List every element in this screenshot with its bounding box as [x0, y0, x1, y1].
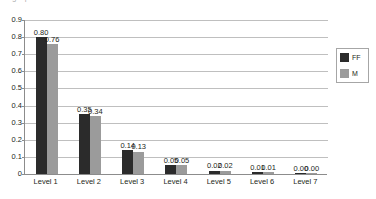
bar-value-label: 0.01: [261, 164, 276, 172]
bar-m: 0.00: [306, 173, 317, 174]
bar-ff: 0.14: [122, 150, 133, 174]
bar-ff: 0.00: [295, 173, 306, 174]
bar-m: 0.76: [47, 44, 58, 174]
legend-label-ff: FF: [352, 54, 361, 61]
bar-ff: 0.05: [165, 165, 176, 174]
bar-value-label: 0.76: [45, 36, 60, 44]
y-axis-tick-label: 0.1: [12, 153, 22, 161]
x-axis-label: Level 5: [197, 177, 240, 186]
bar-m: 0.13: [133, 152, 144, 174]
bar-ff: 0.02: [209, 171, 220, 174]
bar-group: 0.050.05: [155, 20, 198, 174]
y-axis-tick-label: 0.4: [12, 102, 22, 110]
legend-swatch-ff: [340, 53, 349, 62]
y-axis-tick-label: 0.6: [12, 68, 22, 76]
bar-group: 0.000.00: [285, 20, 328, 174]
bar-m: 0.01: [263, 172, 274, 174]
bar-value-label: 0.02: [218, 162, 233, 170]
x-axis-label: Level 7: [284, 177, 327, 186]
x-axis-labels: Level 1Level 2Level 3Level 4Level 5Level…: [24, 177, 327, 186]
bar-m: 0.34: [90, 116, 101, 174]
chart-legend: FF M: [336, 48, 369, 83]
legend-item-ff: FF: [340, 53, 365, 62]
y-axis-tick-label: 0.8: [12, 33, 22, 41]
bar-value-label: 0.05: [175, 157, 190, 165]
clipped-chart-title: graph title: [12, 0, 52, 2]
bar-value-label: 0.00: [305, 165, 320, 173]
y-axis-tick-label: 0.7: [12, 50, 22, 58]
x-axis-label: Level 6: [240, 177, 283, 186]
bar-ff: 0.01: [252, 172, 263, 174]
bar-value-label: 0.34: [88, 108, 103, 116]
bar-m: 0.02: [220, 171, 231, 174]
bar-chart: graph title 00.10.20.30.40.50.60.70.80.9…: [0, 0, 376, 199]
y-axis-tick-label: 0.5: [12, 85, 22, 93]
bar-group: 0.010.01: [241, 20, 284, 174]
bar-group: 0.140.13: [112, 20, 155, 174]
bar-ff: 0.80: [36, 37, 47, 174]
bar-m: 0.05: [176, 165, 187, 174]
bar-value-label: 0.13: [131, 143, 146, 151]
y-axis-tick-label: 0.3: [12, 119, 22, 127]
legend-swatch-m: [340, 69, 349, 78]
y-axis-tick-mark: [22, 174, 25, 175]
y-axis-tick-label: 0.2: [12, 136, 22, 144]
x-axis-label: Level 4: [154, 177, 197, 186]
legend-label-m: M: [352, 70, 358, 77]
plot-area: 00.10.20.30.40.50.60.70.80.9 0.800.760.3…: [24, 20, 327, 175]
y-axis-tick-label: 0.9: [12, 16, 22, 24]
bar-group: 0.350.34: [68, 20, 111, 174]
bar-groups: 0.800.760.350.340.140.130.050.050.020.02…: [25, 20, 328, 174]
x-axis-label: Level 1: [24, 177, 67, 186]
legend-item-m: M: [340, 69, 365, 78]
bar-ff: 0.35: [79, 114, 90, 174]
x-axis-label: Level 3: [111, 177, 154, 186]
y-axis-tick-label: 0: [18, 170, 22, 178]
bar-group: 0.800.76: [25, 20, 68, 174]
x-axis-label: Level 2: [67, 177, 110, 186]
bar-group: 0.020.02: [198, 20, 241, 174]
